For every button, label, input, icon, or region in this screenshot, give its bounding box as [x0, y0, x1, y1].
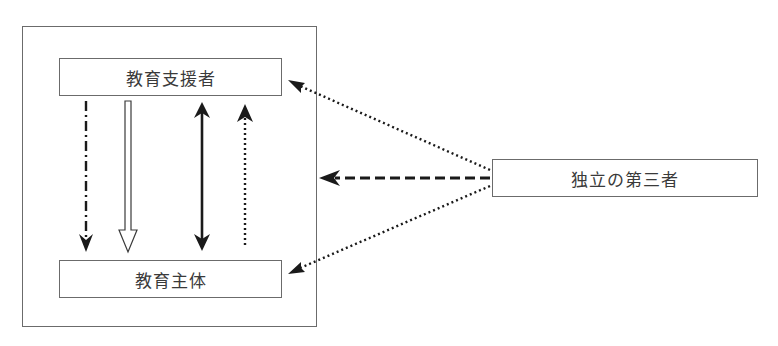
edge-third-to-supporter: [288, 80, 490, 170]
edge-dotted-up: [237, 104, 253, 248]
edge-third-to-subject: [288, 186, 490, 274]
edge-double-bold: [194, 102, 210, 251]
edges-layer: [0, 0, 778, 346]
edge-hollow-down: [119, 101, 137, 252]
edge-third-to-container: [319, 170, 490, 186]
arrowhead-icon: [288, 262, 305, 274]
edge-dash-dot-down: [79, 101, 93, 252]
